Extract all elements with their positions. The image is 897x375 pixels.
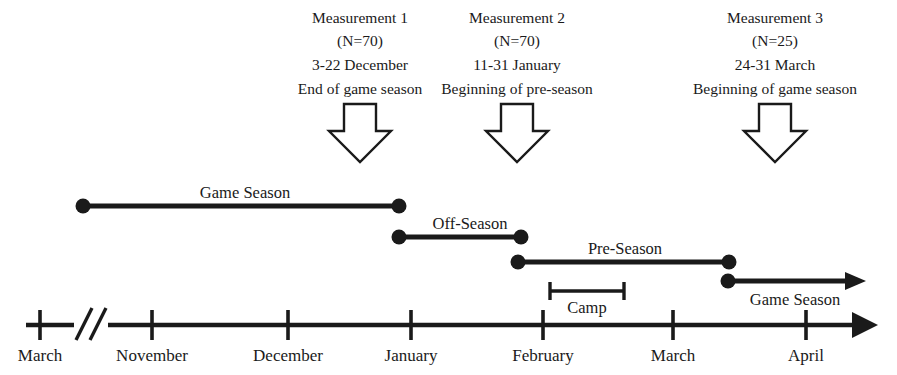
band-label-pre-season: Pre-Season [588, 239, 662, 258]
band-label-game-season-2: Game Season [750, 290, 840, 309]
down-arrow-icon-1 [329, 104, 391, 162]
measurement-block-2: Measurement 2 (N=70) 11-31 January Begin… [441, 9, 593, 97]
measurement-1-name: Measurement 1 [312, 9, 408, 26]
band-label-game-season-1: Game Season [200, 183, 290, 202]
band-start-dot-game-season-1 [76, 199, 91, 214]
figure-container: Measurement 1 (N=70) 3-22 December End o… [0, 0, 897, 375]
measurement-3-phase: Beginning of game season [693, 80, 857, 97]
camp-bracket: Camp [549, 282, 625, 317]
measurement-2-name: Measurement 2 [469, 9, 565, 26]
axis-label-december: December [253, 346, 323, 365]
band-end-dot-pre-season [722, 255, 737, 270]
band-arrowhead-game-season-2 [845, 272, 866, 290]
axis-label-february: February [512, 346, 574, 365]
season-band-pre-season: Pre-Season [511, 239, 737, 270]
measurement-block-3: Measurement 3 (N=25) 24-31 March Beginni… [693, 9, 857, 97]
band-start-dot-pre-season [511, 255, 526, 270]
axis-label-march-end: March [651, 346, 696, 365]
season-band-off-season: Off-Season [392, 214, 529, 245]
measurement-1-phase: End of game season [298, 80, 423, 97]
down-arrow-icon-3 [744, 104, 806, 162]
measurement-block-1: Measurement 1 (N=70) 3-22 December End o… [298, 9, 423, 97]
measurement-2-sample: (N=70) [494, 32, 540, 50]
timeline-figure: Measurement 1 (N=70) 3-22 December End o… [0, 0, 897, 375]
band-end-dot-game-season-1 [392, 199, 407, 214]
axis-arrowhead [852, 312, 878, 338]
axis-label-november: November [116, 346, 188, 365]
camp-label: Camp [567, 298, 606, 317]
measurement-1-dates: 3-22 December [312, 56, 409, 73]
measurement-2-phase: Beginning of pre-season [441, 80, 593, 97]
season-band-game-season-2: Game Season [721, 272, 867, 309]
axis-label-january: January [385, 346, 438, 365]
season-band-game-season-1: Game Season [76, 183, 407, 214]
band-label-off-season: Off-Season [433, 214, 508, 233]
measurement-3-dates: 24-31 March [735, 56, 816, 73]
measurement-1-sample: (N=70) [337, 32, 383, 50]
band-end-dot-off-season [514, 230, 529, 245]
axis-break-mark [74, 308, 108, 340]
axis-label-march-start: March [18, 346, 63, 365]
measurement-3-name: Measurement 3 [727, 9, 823, 26]
band-start-dot-off-season [392, 230, 407, 245]
time-axis: March November December January February… [18, 308, 878, 365]
band-start-dot-game-season-2 [721, 274, 736, 289]
measurement-2-dates: 11-31 January [473, 56, 561, 73]
down-arrow-icon-2 [486, 104, 548, 162]
measurement-3-sample: (N=25) [752, 32, 798, 50]
axis-label-april: April [788, 346, 824, 365]
